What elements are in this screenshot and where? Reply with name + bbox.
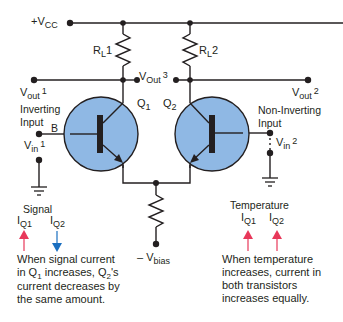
junction-dot	[187, 77, 193, 83]
vin2-ground-dot	[267, 150, 273, 156]
emitter-junction-dot	[153, 180, 159, 186]
temperature-label: Temperature	[230, 199, 289, 211]
q1-transistor-icon	[64, 97, 138, 171]
non-inverting-input-label-line1: Non-Inverting	[258, 104, 321, 116]
vout1-label: Vout1	[20, 86, 47, 99]
inverting-input-label-line1: Inverting	[20, 103, 60, 115]
vin1-ground-dot	[36, 157, 42, 163]
ground-icon-left	[31, 187, 47, 195]
non-inverting-input-label-line2: Input	[258, 117, 281, 129]
iq2-up-arrow-icon	[272, 230, 282, 251]
rl2-label: RL2	[199, 44, 218, 57]
vout1-terminal-dot	[31, 77, 37, 83]
iq1-up-arrow-icon	[19, 230, 29, 251]
iq1-label: IQ1	[17, 214, 32, 227]
differential-amplifier-diagram: +VCC RL1 RL2 VOut3 Vout1 Vout2 Q1 Q2 Inv…	[0, 0, 343, 322]
iq1-label-right: IQ1	[241, 211, 256, 224]
temperature-note-line3: both transistors	[222, 279, 321, 292]
vcc-terminal-dot	[67, 20, 73, 26]
q2-label: Q2	[163, 97, 177, 110]
vin2-label: Vin2	[276, 136, 297, 149]
inverting-input-label-line2: Input	[20, 116, 43, 128]
vbias-terminal-dot	[153, 241, 159, 247]
signal-note-line3: current decreases by	[17, 280, 120, 293]
signal-note-line4: the same amount.	[17, 293, 120, 306]
temperature-note: When temperature increases, current in b…	[222, 253, 321, 305]
junction-dot	[187, 20, 193, 26]
junction-dot	[120, 20, 126, 26]
iq2-down-arrow-icon	[52, 231, 62, 252]
vout2-label: Vout2	[292, 86, 319, 99]
iq1-up-arrow-icon	[243, 230, 253, 251]
re-resistor-icon	[149, 195, 163, 227]
rl2-resistor-icon	[183, 34, 197, 66]
vout2-terminal-dot	[305, 77, 311, 83]
junction-dot	[120, 77, 126, 83]
ground-icon-right	[262, 178, 278, 186]
vcc-label: +VCC	[31, 15, 58, 28]
temperature-note-line1: When temperature	[222, 253, 321, 266]
signal-note: When signal current in Q1 increases, Q2'…	[17, 253, 120, 306]
vin1-terminal-dot	[36, 131, 42, 137]
temperature-note-line2: increases, current in	[222, 266, 321, 279]
vout3-terminal-right-dot	[173, 77, 179, 83]
temperature-note-line4: increases equally.	[222, 292, 321, 305]
signal-note-line2: in Q1 increases, Q2's	[17, 266, 120, 280]
q2-transistor-icon	[175, 97, 249, 171]
rl1-label: RL1	[93, 44, 112, 57]
iq2-label-right: IQ2	[269, 211, 284, 224]
vout3-label: VOut3	[139, 70, 168, 83]
iq2-label: IQ2	[50, 214, 65, 227]
vin2-terminal-dot	[267, 130, 273, 136]
rl1-resistor-icon	[116, 34, 130, 66]
q1-label: Q1	[137, 97, 151, 110]
vbias-label: – Vbias	[137, 251, 170, 264]
signal-note-line1: When signal current	[17, 253, 120, 266]
vin1-label: Vin1	[24, 139, 45, 152]
base-label: B	[51, 122, 58, 134]
